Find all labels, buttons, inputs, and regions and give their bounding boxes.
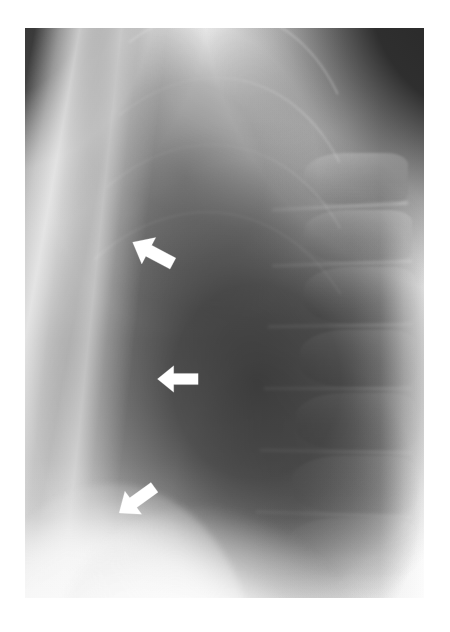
vertebral-body [292,456,416,513]
radiograph-film [25,28,424,598]
screenshot-root [0,0,450,632]
arrow-middle-icon [156,364,200,394]
rib-shadow [25,28,405,321]
intervertebral-disk-line [256,510,412,518]
intervertebral-disk-line [260,448,412,454]
intervertebral-disk-line [272,201,408,211]
rib-shadow [25,28,402,409]
vertebral-body [304,153,408,204]
vertebral-body [304,267,416,324]
vertebral-body [296,393,416,450]
intervertebral-disk-line [272,259,412,267]
intervertebral-disk-line [268,323,412,329]
rib-shadow [25,28,408,510]
intervertebral-disk-line [264,387,412,390]
vertebral-body [300,330,416,387]
vertebral-body [304,210,412,261]
